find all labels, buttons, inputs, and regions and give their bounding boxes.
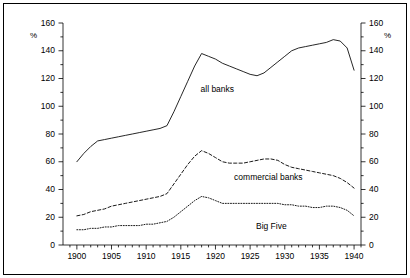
x-tick-label: 1930 [271,251,299,261]
series-label-commercial-banks: commercial banks [234,172,303,182]
y-tick-label-left: 160 [33,18,55,28]
y-tick-label-right: 100 [369,101,391,111]
x-tick-label: 1940 [340,251,368,261]
x-tick-label: 1905 [98,251,126,261]
x-tick-label: 1935 [305,251,333,261]
y-tick-label-right: 20 [369,212,391,222]
series-line-commercial-banks [77,151,354,216]
y-tick-label-left: 80 [33,129,55,139]
axis-ticks [59,23,366,250]
series-label-all-banks: all banks [201,84,235,94]
y-tick-label-right: 40 [369,184,391,194]
x-tick-label: 1900 [63,251,91,261]
x-tick-label: 1920 [201,251,229,261]
x-tick-label: 1910 [132,251,160,261]
x-tick-label: 1925 [236,251,264,261]
y-tick-label-left: 100 [33,101,55,111]
left-axis-unit-label: % [30,31,37,40]
x-tick-label: 1915 [167,251,195,261]
axis-lines [63,23,361,245]
series-line-all-banks [77,40,354,162]
y-tick-label-left: 20 [33,212,55,222]
right-axis-unit-label: % [384,31,391,40]
series-label-big-five: Big Five [256,221,287,231]
y-tick-label-right: 80 [369,129,391,139]
y-tick-label-right: 120 [369,73,391,83]
chart-figure: % % 020406080100120140160 02040608010012… [0,0,410,278]
chart-plot-area [0,0,410,278]
y-tick-label-left: 0 [33,240,55,250]
data-series-group [77,40,354,230]
y-tick-label-right: 0 [369,240,391,250]
y-tick-label-right: 60 [369,156,391,166]
y-tick-label-right: 140 [369,45,391,55]
y-tick-label-left: 60 [33,156,55,166]
y-tick-label-right: 160 [369,18,391,28]
y-tick-label-left: 120 [33,73,55,83]
y-tick-label-left: 40 [33,184,55,194]
y-tick-label-left: 140 [33,45,55,55]
series-line-big-five [77,196,354,229]
